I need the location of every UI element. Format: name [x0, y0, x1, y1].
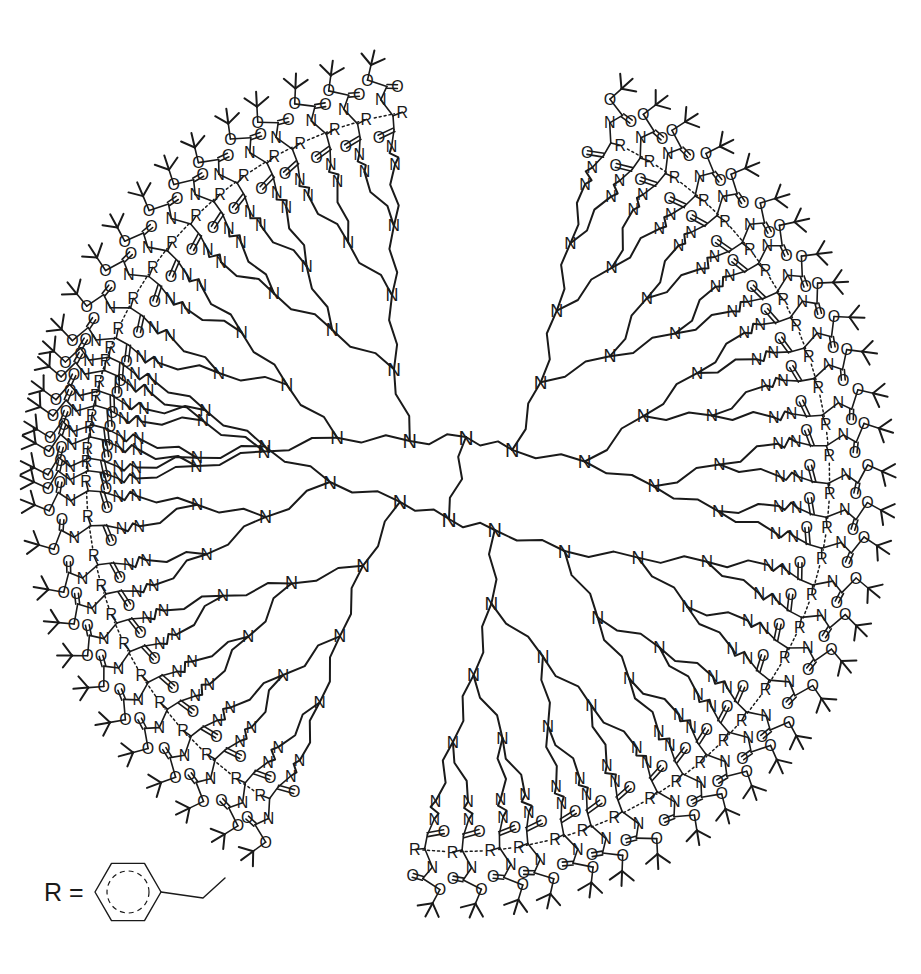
carbonyl-oxygen: O [310, 149, 322, 166]
carbamate-oxygen: O [813, 305, 825, 322]
carbamate-oxygen: O [849, 444, 861, 461]
carbonyl-oxygen: O [803, 457, 815, 474]
carbonyl-oxygen: O [727, 252, 739, 269]
carbamate-oxygen: O [737, 194, 749, 211]
carbamate-oxygen: O [780, 247, 792, 264]
alpha-r-bond [415, 849, 425, 850]
carbamate-oxygen: O [658, 812, 670, 829]
carbonyl-oxygen: O [101, 499, 113, 516]
carbonyl-oxygen: O [473, 823, 485, 840]
carbonyl-oxygen: O [114, 569, 126, 586]
carbonyl-oxygen: O [101, 437, 113, 454]
carbonyl-oxygen: O [757, 647, 769, 664]
carbamate-oxygen: O [145, 218, 157, 235]
carbonyl-oxygen: O [737, 678, 749, 695]
carbonyl-oxygen: O [664, 190, 676, 207]
carbonyl-oxygen: O [624, 779, 636, 796]
carbonyl-oxygen: O [581, 144, 593, 161]
o-tbutyl-bond [818, 282, 834, 283]
tert-butyl-methyl-bond [82, 257, 97, 258]
tert-butyl-methyl-bond [867, 588, 868, 603]
carbamate-oxygen: O [215, 792, 227, 809]
carbonyl-oxygen: O [228, 200, 240, 217]
carbamate-oxygen: O [683, 147, 695, 164]
tert-butyl-methyl-bond [620, 74, 621, 89]
carbonyl-oxygen: O [106, 404, 118, 421]
carbonyl-oxygen: O [114, 372, 126, 389]
carbonyl-oxygen: O [132, 324, 144, 341]
o-tbutyl-bond [88, 687, 104, 688]
carbamate-oxygen: O [391, 78, 403, 95]
carbamate-oxygen: O [447, 870, 459, 887]
carbonyl-oxygen: O [785, 358, 797, 375]
carbamate-oxygen: O [222, 147, 234, 164]
carbonyl-oxygen: O [186, 241, 198, 258]
tert-butyl-methyl-bond [833, 282, 848, 283]
dendrimer-figure: NNNNNNNNNNNNNNNNNNNNNNNNNNNNNNNNNNNNNNNN… [0, 0, 921, 974]
carbamate-oxygen: O [837, 372, 849, 389]
carbamate-oxygen: O [70, 585, 82, 602]
tert-butyl-methyl-bond [36, 415, 37, 430]
carbonyl-oxygen: O [801, 519, 813, 536]
tert-butyl-methyl-bond [658, 854, 659, 869]
carbamate-oxygen: O [487, 868, 499, 885]
carbonyl-oxygen: O [187, 703, 199, 720]
o-tbutyl-bond [834, 317, 850, 318]
carbonyl-oxygen: O [264, 769, 276, 786]
o-tbutyl-bond [622, 855, 623, 871]
tert-butyl-methyl-bond [841, 661, 856, 662]
carbonyl-oxygen: O [701, 721, 713, 738]
carbonyl-oxygen: O [165, 268, 177, 285]
carbonyl-oxygen: O [803, 490, 815, 507]
tert-butyl-methyl-bond [877, 546, 878, 561]
carbamate-oxygen: O [113, 681, 125, 698]
carbonyl-oxygen: O [210, 728, 222, 745]
carbamate-oxygen: O [406, 867, 418, 884]
tert-butyl-methyl-bond [821, 699, 836, 700]
carbonyl-oxygen: O [134, 624, 146, 641]
carbonyl-oxygen: O [207, 219, 219, 236]
alpha-r-bond [826, 517, 827, 527]
carbonyl-oxygen: O [634, 171, 646, 188]
tert-butyl-methyl-bond [685, 107, 686, 122]
tert-butyl-methyl-bond [40, 392, 41, 407]
carbonyl-oxygen: O [785, 586, 797, 603]
carbonyl-oxygen: O [148, 650, 160, 667]
carbonyl-oxygen: O [569, 803, 581, 820]
tert-butyl-methyl-bond [295, 73, 296, 88]
carbonyl-oxygen: O [535, 813, 547, 830]
carbonyl-oxygen: O [438, 823, 450, 840]
tert-butyl-methyl-bond [622, 871, 623, 886]
carbonyl-oxygen: O [123, 597, 135, 614]
alpha-r-bond [812, 585, 813, 595]
carbonyl-oxygen: O [679, 740, 691, 757]
carbamate-oxygen: O [81, 617, 93, 634]
carbonyl-oxygen: O [255, 180, 267, 197]
carbamate-n-c-bond [124, 699, 139, 700]
tert-butyl-methyl-bond [73, 688, 88, 689]
carbamate-oxygen: O [56, 511, 68, 528]
c-alpha-bond [393, 116, 394, 130]
carbamate-oxygen: O [133, 710, 145, 727]
carbamate-oxygen: O [827, 339, 839, 356]
carbonyl-oxygen: O [288, 783, 300, 800]
carbamate-oxygen: O [781, 695, 793, 712]
tert-butyl-methyl-bond [54, 337, 55, 352]
carbamate-oxygen: O [55, 439, 67, 456]
carbonyl-oxygen: O [373, 129, 385, 146]
carbonyl-oxygen: O [148, 293, 160, 310]
o-tbutyl-bond [657, 839, 658, 855]
legend-r-equals-label: R = [44, 878, 84, 906]
carbonyl-oxygen: O [746, 278, 758, 295]
tert-butyl-methyl-bond [44, 621, 59, 622]
carbamate-oxygen: O [80, 331, 92, 348]
carbamate-oxygen: O [54, 474, 66, 491]
dendrimer-diagram-svg: NNNNNNNNNNNNNNNNNNNNNNNNNNNNNNNNNNNNNNNN… [0, 0, 921, 974]
carbonyl-oxygen: O [339, 138, 351, 155]
carbamate-oxygen: O [158, 740, 170, 757]
carbonyl-oxygen: O [656, 758, 668, 775]
carbonyl-oxygen: O [760, 301, 772, 318]
carbamate-oxygen: O [282, 111, 294, 128]
carbonyl-oxygen: O [773, 616, 785, 633]
o-tbutyl-bond [295, 88, 296, 104]
